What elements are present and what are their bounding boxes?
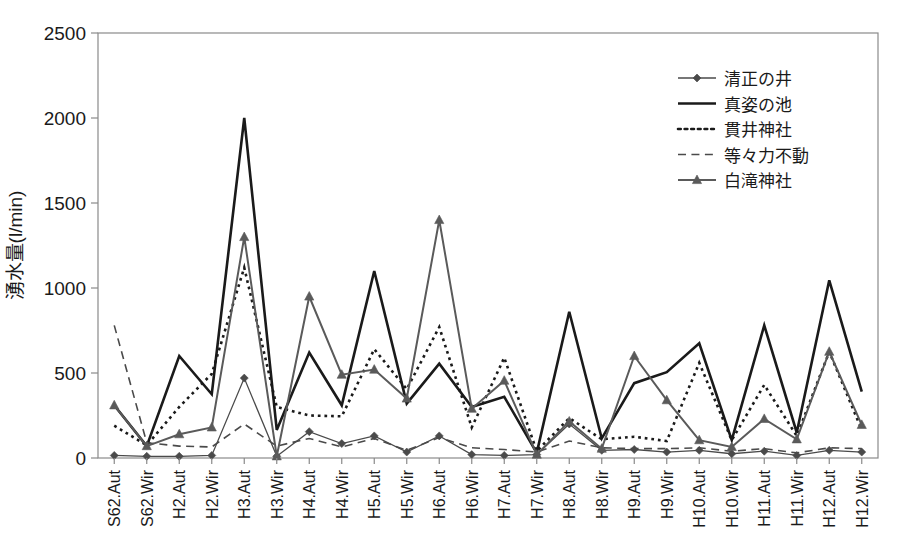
x-tick-label: H8.Aut: [561, 469, 578, 518]
y-tick-label: 2500: [44, 23, 86, 44]
x-tick-label: H4.Wir: [334, 469, 351, 519]
y-axis-title-text: 湧水量(l/min): [5, 191, 26, 301]
x-tick-label: H12.Wir: [854, 469, 871, 527]
x-tick-label: H8.Wir: [594, 469, 611, 519]
x-tick-label: S62.Aut: [106, 469, 123, 526]
y-tick-label: 2000: [44, 108, 86, 129]
x-tick-label: H9.Wir: [659, 469, 676, 519]
x-tick-label: H5.Wir: [399, 469, 416, 519]
x-tick-label: H3.Aut: [236, 469, 253, 518]
y-axis-title: 湧水量(l/min): [5, 191, 26, 301]
x-tick-label: H10.Wir: [724, 469, 741, 527]
legend-label: 清正の井: [724, 70, 792, 89]
x-tick-label: H11.Aut: [756, 469, 773, 526]
x-tick-label: H7.Wir: [529, 469, 546, 519]
y-tick-label: 1000: [44, 278, 86, 299]
legend-label: 貫井神社: [724, 121, 792, 140]
y-tick-label: 500: [54, 363, 86, 384]
x-tick-label: H6.Aut: [431, 469, 448, 518]
y-tick-label: 1500: [44, 193, 86, 214]
x-tick-label: H10.Aut: [691, 469, 708, 527]
x-tick-label: H9.Aut: [626, 469, 643, 518]
x-tick-label: H4.Aut: [301, 469, 318, 518]
x-tick-label: H5.Aut: [366, 469, 383, 518]
line-chart: 05001000150020002500 S62.AutS62.WirH2.Au…: [0, 0, 907, 558]
x-tick-label: H6.Wir: [464, 469, 481, 519]
x-tick-label: S62.Wir: [139, 469, 156, 527]
legend-label: 白滝神社: [724, 172, 792, 191]
y-tick-label: 0: [75, 448, 86, 469]
x-tick-label: H12.Aut: [821, 469, 838, 527]
x-tick-label: H7.Aut: [496, 469, 513, 518]
x-tick-label: H2.Aut: [171, 469, 188, 518]
x-tick-label: H3.Wir: [269, 469, 286, 519]
x-tick-label: H11.Wir: [789, 469, 806, 526]
legend-label: 真姿の池: [724, 96, 792, 115]
x-tick-label: H2.Wir: [204, 469, 221, 519]
chart-canvas: 05001000150020002500 S62.AutS62.WirH2.Au…: [0, 0, 907, 558]
legend-label: 等々力不動: [724, 147, 809, 166]
